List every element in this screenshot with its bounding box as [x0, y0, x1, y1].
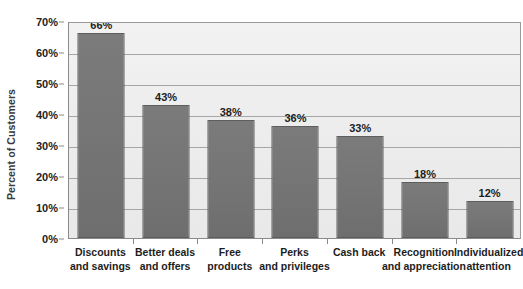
bar[interactable]	[272, 126, 319, 238]
bar[interactable]	[78, 33, 125, 238]
x-category-label-line: Better deals	[135, 246, 195, 260]
x-category-label-line: and privileges	[259, 260, 330, 274]
bars-layer: 66%43%38%36%33%18%12%	[69, 23, 520, 238]
y-axis-title: Percent of Customers	[0, 0, 22, 289]
bar-slot: 12%	[457, 23, 521, 238]
bar[interactable]	[401, 182, 448, 238]
bar-slot: 33%	[328, 23, 393, 238]
x-category-label-line: Perks	[259, 246, 330, 260]
x-tick-mark	[133, 239, 134, 244]
x-tick-mark	[197, 239, 198, 244]
x-category-label-line: products	[207, 260, 252, 274]
bar-chart: Percent of Customers 0%10%20%30%40%50%60…	[0, 0, 523, 289]
bar-slot: 43%	[134, 23, 199, 238]
x-category-label: Freeproducts	[207, 246, 252, 273]
y-tick-mark-20	[59, 177, 64, 178]
bar-value-label: 12%	[479, 187, 501, 199]
y-tick-mark-50	[59, 84, 64, 85]
x-category-label-line: Free	[207, 246, 252, 260]
x-category-label-line: attention	[454, 260, 523, 274]
x-category-label-line: Individualized	[454, 246, 523, 260]
y-tick-label-60: 60%	[36, 47, 58, 59]
y-tick-mark-40	[59, 115, 64, 116]
y-tick-label-30: 30%	[36, 140, 58, 152]
bar-value-label: 38%	[220, 106, 242, 118]
y-axis-tick-labels: 0%10%20%30%40%50%60%70%	[22, 22, 64, 239]
plot-area: 66%43%38%36%33%18%12%	[68, 22, 521, 239]
bar-slot: 36%	[263, 23, 328, 238]
y-tick-label-20: 20%	[36, 171, 58, 183]
x-axis-tick-marks	[68, 239, 521, 245]
y-tick-label-0: 0%	[42, 233, 58, 245]
x-tick-mark	[327, 239, 328, 244]
bar-slot: 18%	[393, 23, 458, 238]
y-tick-label-70: 70%	[36, 16, 58, 28]
bar[interactable]	[207, 120, 254, 238]
x-category-label: Discountsand savings	[70, 246, 131, 273]
x-category-label-line: Discounts	[70, 246, 131, 260]
x-tick-mark	[262, 239, 263, 244]
x-category-label: Perksand privileges	[259, 246, 330, 273]
bar-slot: 66%	[69, 23, 134, 238]
y-tick-label-10: 10%	[36, 202, 58, 214]
bar-value-label: 43%	[155, 91, 177, 103]
x-category-label-line: and savings	[70, 260, 131, 274]
y-tick-mark-0	[59, 239, 64, 240]
y-tick-mark-10	[59, 208, 64, 209]
bar[interactable]	[466, 201, 513, 238]
bar-slot: 38%	[198, 23, 263, 238]
x-category-label: Better dealsand offers	[135, 246, 195, 273]
y-tick-mark-70	[59, 22, 64, 23]
bar-value-label: 18%	[414, 168, 436, 180]
x-category-label-line: and offers	[135, 260, 195, 274]
bar-value-label: 33%	[349, 122, 371, 134]
y-tick-label-40: 40%	[36, 109, 58, 121]
x-category-label: Cash back	[333, 246, 386, 260]
x-axis-category-labels: Discountsand savingsBetter dealsand offe…	[68, 246, 521, 288]
bar-value-label: 36%	[284, 112, 306, 124]
bar[interactable]	[337, 136, 384, 238]
x-category-label-line: Cash back	[333, 246, 386, 260]
y-tick-mark-30	[59, 146, 64, 147]
x-category-label: Individualizedattention	[454, 246, 523, 273]
x-tick-mark	[456, 239, 457, 244]
bar-value-label: 66%	[90, 22, 112, 31]
bar[interactable]	[143, 105, 190, 238]
x-tick-mark	[392, 239, 393, 244]
y-tick-label-50: 50%	[36, 78, 58, 90]
y-tick-mark-60	[59, 53, 64, 54]
